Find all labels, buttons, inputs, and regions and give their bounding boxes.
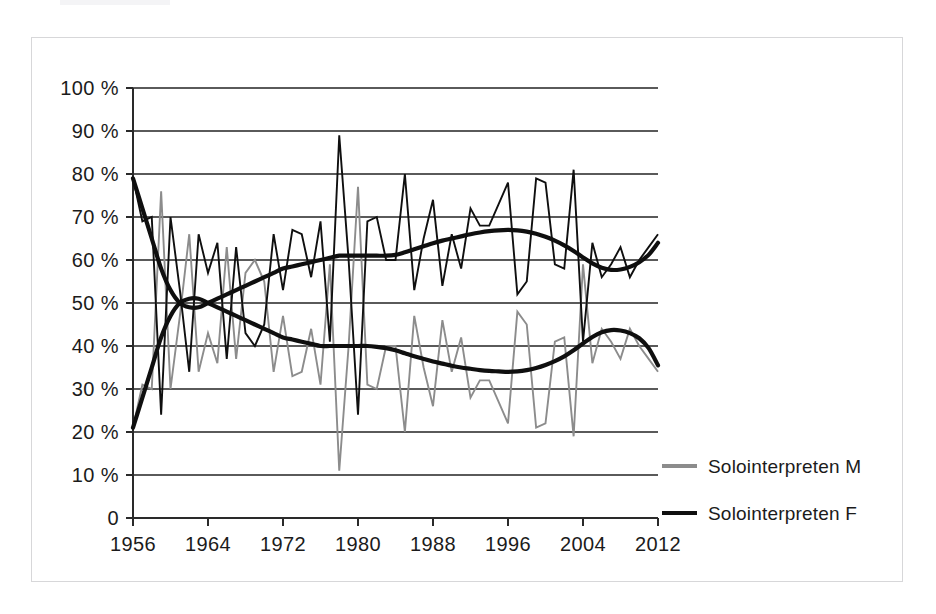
y-tick-label-40: 40 % [72,335,119,357]
x-tick-label-1988: 1988 [410,533,456,555]
series-solointerpreten-m [133,187,658,471]
x-tick-label-1972: 1972 [260,533,306,555]
line-chart: 100 %90 %80 %70 %60 %50 %40 %30 %20 %10 … [0,0,936,614]
y-tick-label-30: 30 % [72,378,119,400]
x-axis-tick-labels: 19561964197219801988199620042012 [110,533,681,555]
series-solointerpreten-f [133,135,658,415]
x-tick-label-1996: 1996 [485,533,531,555]
legend-label-solointerpreten-f: Solointerpreten F [708,503,857,524]
y-tick-label-50: 50 % [72,292,119,314]
y-tick-label-60: 60 % [72,249,119,271]
y-axis-tick-labels: 100 %90 %80 %70 %60 %50 %40 %30 %20 %10 … [60,77,119,529]
figure-page: 100 %90 %80 %70 %60 %50 %40 %30 %20 %10 … [0,0,936,614]
y-tick-label-20: 20 % [72,421,119,443]
legend-label-solointerpreten-m: Solointerpreten M [708,456,861,477]
x-tick-label-1980: 1980 [335,533,381,555]
x-tick-label-2004: 2004 [560,533,606,555]
y-tick-label-100: 100 % [60,77,119,99]
axis-ticks [126,88,658,526]
x-tick-label-1956: 1956 [110,533,156,555]
y-tick-label-0: 0 [107,507,119,529]
x-tick-label-1964: 1964 [185,533,231,555]
scan-artifact [60,0,170,5]
y-tick-label-70: 70 % [72,206,119,228]
x-tick-label-2012: 2012 [635,533,681,555]
y-tick-label-10: 10 % [72,464,119,486]
y-tick-label-90: 90 % [72,120,119,142]
y-tick-label-80: 80 % [72,163,119,185]
chart-legend: Solointerpreten M Solointerpreten F [662,456,861,524]
